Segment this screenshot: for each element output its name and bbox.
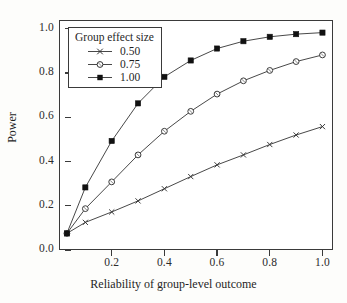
data-point-marker: [83, 185, 88, 190]
legend-title: Group effect size: [75, 31, 154, 43]
legend-entry-label: 0.75: [113, 58, 140, 70]
x-axis-title: Reliability of group-level outcome: [0, 277, 347, 292]
chart-figure: 0.00.20.40.60.81.0 Reliability of group-…: [0, 0, 347, 303]
data-point-marker: [188, 58, 193, 63]
data-point-marker: [241, 39, 246, 44]
y-tick-label: 0.0: [20, 242, 54, 254]
open-circle-marker: [87, 57, 113, 70]
y-tick-label: 0.2: [20, 198, 54, 210]
series-0-50: [64, 124, 325, 236]
x-tick-mark: [216, 250, 217, 256]
y-tick-label: 0.4: [20, 154, 54, 166]
series-line: [67, 127, 323, 234]
legend-entry: 0.50: [75, 44, 154, 57]
data-point-marker: [109, 138, 114, 143]
data-point-marker: [294, 32, 299, 37]
filled-square-marker: [87, 70, 113, 83]
y-tick-label: 0.8: [20, 65, 54, 77]
y-tick-mark: [65, 205, 71, 206]
y-tick-mark: [65, 249, 71, 250]
legend-entry: 1.00: [75, 70, 154, 83]
x-tick-mark: [269, 250, 270, 256]
data-point-marker: [162, 74, 167, 79]
y-tick-mark: [65, 161, 71, 162]
x-marker: [87, 44, 113, 57]
y-tick-label: 0.6: [20, 109, 54, 121]
data-point-marker: [135, 101, 140, 106]
legend-entry-label: 1.00: [113, 71, 140, 83]
x-tick-mark: [164, 250, 165, 256]
x-tick-label: 0.6: [197, 256, 237, 268]
y-tick-label: 1.0: [20, 21, 54, 33]
data-point-marker: [214, 46, 219, 51]
legend-entry-label: 0.50: [113, 45, 140, 57]
data-point-marker: [64, 231, 69, 236]
x-tick-label: 0.4: [144, 256, 184, 268]
legend: Group effect size 0.500.751.00: [68, 27, 162, 88]
legend-entry: 0.75: [75, 57, 154, 70]
data-point-marker: [267, 34, 272, 39]
x-tick-label: 1.0: [302, 256, 342, 268]
x-tick-label: 0.2: [92, 256, 132, 268]
x-tick-label: 0.8: [250, 256, 290, 268]
legend-entries: 0.500.751.00: [75, 44, 154, 83]
y-tick-mark: [65, 117, 71, 118]
data-point-marker: [320, 30, 325, 35]
y-axis-title: Power: [5, 88, 20, 168]
x-tick-mark: [322, 250, 323, 256]
x-tick-mark: [111, 250, 112, 256]
